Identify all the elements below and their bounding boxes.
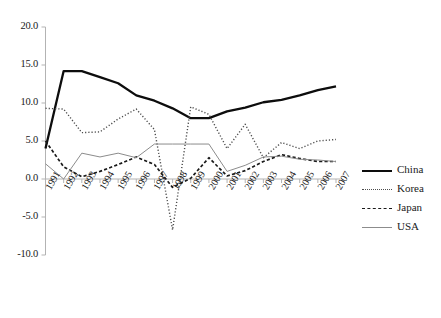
legend-line-swatch-icon [362,222,392,232]
y-axis-tick-label: -5.0 [2,210,38,221]
y-axis-tick-label: 5.0 [2,134,38,145]
chart-series-layer [46,71,337,230]
series-line-china [46,71,337,149]
legend-line-swatch-icon [362,165,392,175]
y-axis-tick-label: 20.0 [2,20,38,31]
legend-label: Korea [397,183,424,194]
legend-label: China [397,164,423,175]
legend-item-china: China [362,160,441,179]
chart-container: 20.015.010.05.00.0-5.0-10.0 199119921993… [0,0,441,318]
legend-item-japan: Japan [362,198,441,217]
legend-line-swatch-icon [362,184,392,194]
chart-plot-area [0,0,441,318]
legend-label: USA [397,221,419,232]
legend-item-korea: Korea [362,179,441,198]
chart-legend: ChinaKoreaJapanUSA [362,160,441,236]
y-axis-tick-label: -10.0 [2,248,38,259]
legend-item-usa: USA [362,217,441,236]
series-line-korea [46,107,337,230]
y-axis-tick-label: 15.0 [2,58,38,69]
legend-label: Japan [397,202,422,213]
y-axis-tick-label: 10.0 [2,96,38,107]
legend-line-swatch-icon [362,203,392,213]
chart-axes [42,27,341,255]
y-axis-tick-label: 0.0 [2,172,38,183]
